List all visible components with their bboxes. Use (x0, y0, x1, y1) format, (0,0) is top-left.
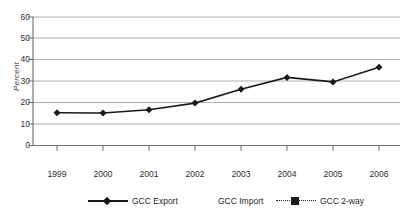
line-chart: Percent 60 50 40 30 20 10 0 1999 2000 20… (0, 0, 407, 215)
plot-area (0, 0, 407, 215)
series-line-gcc-export (57, 67, 379, 113)
data-point (100, 109, 107, 116)
legend-label-gcc-import: GCC Import (218, 196, 263, 206)
legend-item-gcc-import[interactable]: GCC Import (218, 194, 263, 208)
data-point (376, 64, 383, 71)
data-point (284, 74, 291, 81)
gridlines (33, 17, 400, 124)
data-point (330, 78, 337, 85)
y-axis-ticks (28, 17, 33, 146)
data-point (54, 109, 61, 116)
legend-label-gcc-export: GCC Export (132, 196, 178, 206)
data-point (238, 86, 245, 93)
data-point (192, 100, 199, 107)
series-markers-gcc-export (54, 64, 383, 117)
legend-item-gcc-export[interactable]: GCC Export (88, 194, 178, 208)
legend-swatch-square-dotted-icon (276, 196, 316, 206)
legend-swatch-diamond-solid-icon (88, 196, 128, 206)
legend-item-gcc-2-way[interactable]: GCC 2-way (276, 194, 364, 208)
x-axis-ticks (57, 146, 379, 152)
chart-legend: GCC Export GCC Import GCC 2-way (0, 194, 407, 210)
legend-label-gcc-2-way: GCC 2-way (320, 196, 364, 206)
data-point (146, 106, 153, 113)
